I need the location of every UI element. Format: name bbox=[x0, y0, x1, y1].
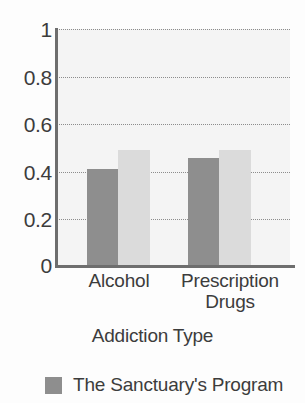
bar-chart-figure: 1 0.8 0.6 0.4 0.2 0 Alcohol Prescription… bbox=[0, 0, 305, 403]
x-axis-title: Addiction Type bbox=[0, 325, 305, 347]
plot-area bbox=[57, 29, 290, 267]
legend-entry-sanctuary-program: The Sanctuary's Program bbox=[45, 374, 283, 396]
bar-prescription-drugs-sanctuary bbox=[188, 158, 219, 267]
y-tick-label-0-8: 0.8 bbox=[0, 67, 52, 88]
gridline-1 bbox=[57, 29, 290, 30]
bar-alcohol-comparison bbox=[118, 150, 150, 267]
y-tick-label-0-6: 0.6 bbox=[0, 114, 52, 135]
x-category-label-prescription-drugs: Prescription Drugs bbox=[167, 271, 293, 312]
y-tick-label-1: 1 bbox=[0, 19, 52, 40]
y-axis-line bbox=[55, 28, 58, 268]
legend-swatch-icon bbox=[45, 377, 62, 394]
gridline-0-6 bbox=[57, 124, 290, 125]
gridline-0-8 bbox=[57, 77, 290, 78]
y-tick-label-0-4: 0.4 bbox=[0, 162, 52, 183]
bar-prescription-drugs-comparison bbox=[219, 150, 251, 267]
y-tick-label-0: 0 bbox=[0, 255, 52, 276]
x-axis-line bbox=[55, 265, 295, 268]
legend-label-sanctuary-program: The Sanctuary's Program bbox=[73, 374, 283, 396]
chart-legend: The Sanctuary's Program bbox=[45, 374, 283, 396]
x-category-label-alcohol: Alcohol bbox=[66, 271, 172, 292]
y-tick-label-0-2: 0.2 bbox=[0, 209, 52, 230]
bar-alcohol-sanctuary bbox=[87, 169, 118, 267]
